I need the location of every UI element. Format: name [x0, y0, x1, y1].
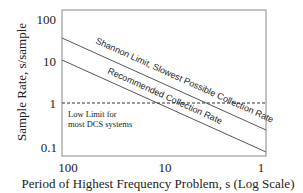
plot-frame: [62, 10, 266, 156]
y-tick-1: 1: [50, 96, 57, 111]
y-tick-10: 10: [43, 54, 56, 69]
x-axis-title: Period of Highest Frequency Problem, s (…: [22, 176, 295, 191]
chart: 100 10 1 0.1 100 10 1 Period of Highest …: [0, 0, 303, 193]
y-axis-title: Sample Rate, s/sample: [14, 23, 29, 141]
y-tick-100: 100: [37, 12, 57, 27]
low-limit-label-line1: Low Limit for: [68, 109, 117, 119]
x-tick-10: 10: [159, 160, 172, 175]
x-tick-100: 100: [58, 160, 78, 175]
y-tick-0.1: 0.1: [41, 140, 57, 155]
low-limit-label-line2: most DCS systems: [68, 119, 132, 129]
x-tick-1: 1: [258, 160, 265, 175]
